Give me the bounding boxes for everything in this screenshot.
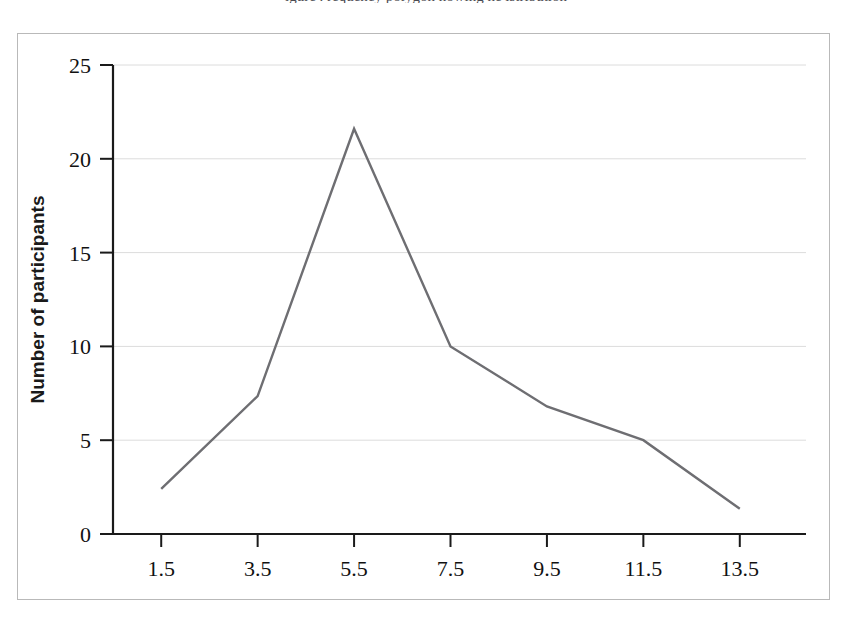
y-tick-labels-group: 0510152025 (69, 53, 91, 547)
y-tick-label-0: 0 (80, 522, 91, 547)
y-axis-title: Number of participants (27, 196, 48, 404)
x-tick-labels-group: 1.53.55.57.59.511.513.5 (147, 556, 759, 581)
x-tick-label-7.5: 7.5 (437, 556, 465, 581)
x-tick-marks-group (161, 534, 740, 547)
x-tick-label-13.5: 13.5 (721, 556, 760, 581)
x-tick-label-1.5: 1.5 (147, 556, 175, 581)
x-axis-title: Number of words recalled (334, 599, 567, 601)
x-tick-label-5.5: 5.5 (340, 556, 368, 581)
y-tick-marks-group (100, 65, 113, 534)
x-tick-label-3.5: 3.5 (244, 556, 272, 581)
chart-plot-area: 0510152025 1.53.55.57.59.511.513.5 Numbe… (18, 34, 831, 601)
y-tick-label-20: 20 (69, 147, 91, 172)
y-tick-label-5: 5 (80, 428, 91, 453)
gridlines-group (113, 65, 806, 534)
data-series-line (161, 129, 740, 509)
y-tick-label-25: 25 (69, 53, 91, 78)
y-tick-label-15: 15 (69, 241, 91, 266)
figure-frame: 0510152025 1.53.55.57.59.511.513.5 Numbe… (17, 33, 830, 600)
line-chart-svg: 0510152025 1.53.55.57.59.511.513.5 Numbe… (18, 34, 831, 601)
x-tick-label-11.5: 11.5 (625, 556, 663, 581)
x-tick-label-9.5: 9.5 (533, 556, 561, 581)
y-tick-label-10: 10 (69, 334, 91, 359)
figure-caption-clipped: igure . requency polygon howing he istri… (0, 0, 852, 3)
